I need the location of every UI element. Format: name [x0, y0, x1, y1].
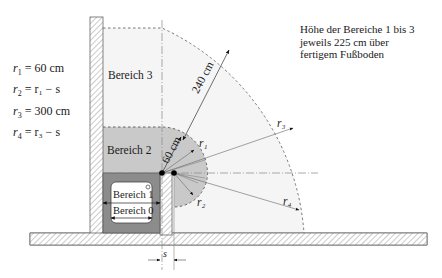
center-point-1: [159, 170, 165, 176]
formula-r4: r4 = r₃ − s: [13, 124, 70, 145]
formula-r1: r1 = 60 cm: [13, 60, 70, 81]
r2-label: r₂: [197, 197, 205, 209]
r3-label: r₃: [277, 118, 285, 130]
r4-label: r₄: [283, 196, 291, 208]
r1-label: r₁: [199, 138, 207, 150]
s-label: s: [163, 249, 167, 259]
formula-r2: r2 = r₁ − s: [13, 81, 70, 102]
zone-1-label: Bereich 1: [113, 190, 154, 201]
height-note: Höhe der Bereiche 1 bis 3 jeweils 225 cm…: [300, 23, 415, 61]
center-point-2: [171, 170, 177, 176]
zone-0-label: Bereich 0: [113, 206, 154, 217]
radius-formulas: r1 = 60 cm r2 = r₁ − s r3 = 300 cm r4 = …: [13, 60, 70, 146]
zone-3-label: Bereich 3: [108, 70, 152, 82]
left-wall: [90, 17, 103, 235]
zone-2-label: Bereich 2: [107, 145, 151, 157]
formula-r3: r3 = 300 cm: [13, 103, 70, 124]
